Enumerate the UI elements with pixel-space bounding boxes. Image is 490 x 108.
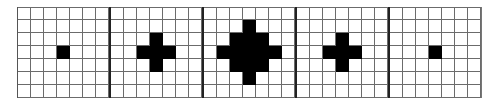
empty-cell xyxy=(18,85,31,98)
empty-cell xyxy=(137,72,150,85)
empty-cell xyxy=(189,72,202,85)
empty-cell xyxy=(349,59,362,72)
empty-cell xyxy=(310,20,323,33)
empty-cell xyxy=(70,59,83,72)
empty-cell xyxy=(336,7,349,20)
empty-cell xyxy=(349,33,362,46)
empty-cell xyxy=(323,33,336,46)
empty-cell xyxy=(468,20,481,33)
empty-cell xyxy=(455,59,468,72)
empty-cell xyxy=(323,85,336,98)
empty-cell xyxy=(163,7,176,20)
empty-cell xyxy=(204,85,217,98)
empty-cell xyxy=(442,20,455,33)
empty-cell xyxy=(349,7,362,20)
empty-cell xyxy=(442,46,455,59)
empty-cell xyxy=(124,33,137,46)
empty-cell xyxy=(18,20,31,33)
empty-cell xyxy=(390,46,403,59)
empty-cell xyxy=(83,85,96,98)
empty-cell xyxy=(297,7,310,20)
empty-cell xyxy=(204,33,217,46)
filled-cell xyxy=(429,46,442,59)
empty-cell xyxy=(57,72,70,85)
empty-cell xyxy=(310,46,323,59)
empty-cell xyxy=(375,72,388,85)
empty-cell xyxy=(96,72,109,85)
empty-cell xyxy=(31,46,44,59)
empty-cell xyxy=(83,72,96,85)
empty-cell xyxy=(83,59,96,72)
empty-cell xyxy=(323,59,336,72)
empty-cell xyxy=(310,59,323,72)
empty-cell xyxy=(137,7,150,20)
empty-cell xyxy=(429,59,442,72)
empty-cell xyxy=(310,7,323,20)
empty-cell xyxy=(163,33,176,46)
empty-cell xyxy=(403,85,416,98)
empty-cell xyxy=(83,33,96,46)
empty-cell xyxy=(336,20,349,33)
empty-cell xyxy=(349,20,362,33)
filled-cell xyxy=(150,33,163,46)
empty-cell xyxy=(256,7,269,20)
empty-cell xyxy=(96,59,109,72)
panel-4 xyxy=(295,7,388,98)
empty-cell xyxy=(70,7,83,20)
filled-cell xyxy=(243,33,256,46)
panel-1 xyxy=(17,7,109,98)
empty-cell xyxy=(468,33,481,46)
empty-cell xyxy=(163,20,176,33)
empty-cell xyxy=(44,46,57,59)
filled-cell xyxy=(349,46,362,59)
empty-cell xyxy=(230,7,243,20)
empty-cell xyxy=(336,72,349,85)
empty-cell xyxy=(336,85,349,98)
empty-cell xyxy=(297,59,310,72)
empty-cell xyxy=(57,7,70,20)
empty-cell xyxy=(83,7,96,20)
empty-cell xyxy=(442,72,455,85)
empty-cell xyxy=(256,72,269,85)
empty-cell xyxy=(83,46,96,59)
empty-cell xyxy=(442,85,455,98)
empty-cell xyxy=(176,20,189,33)
empty-cell xyxy=(217,85,230,98)
empty-cell xyxy=(468,7,481,20)
empty-cell xyxy=(282,20,295,33)
empty-cell xyxy=(256,20,269,33)
empty-cell xyxy=(362,72,375,85)
filled-cell xyxy=(256,46,269,59)
empty-cell xyxy=(375,46,388,59)
empty-cell xyxy=(176,72,189,85)
empty-cell xyxy=(150,7,163,20)
empty-cell xyxy=(163,59,176,72)
empty-cell xyxy=(176,85,189,98)
empty-cell xyxy=(468,59,481,72)
empty-cell xyxy=(96,20,109,33)
empty-cell xyxy=(217,20,230,33)
empty-cell xyxy=(282,59,295,72)
empty-cell xyxy=(403,72,416,85)
empty-cell xyxy=(429,7,442,20)
empty-cell xyxy=(124,59,137,72)
empty-cell xyxy=(96,46,109,59)
empty-cell xyxy=(189,7,202,20)
empty-cell xyxy=(403,33,416,46)
empty-cell xyxy=(189,46,202,59)
empty-cell xyxy=(44,59,57,72)
empty-cell xyxy=(230,72,243,85)
empty-cell xyxy=(362,46,375,59)
empty-cell xyxy=(455,7,468,20)
empty-cell xyxy=(455,20,468,33)
empty-cell xyxy=(403,59,416,72)
filled-cell xyxy=(57,46,70,59)
filled-cell xyxy=(230,46,243,59)
filled-cell xyxy=(336,59,349,72)
empty-cell xyxy=(124,72,137,85)
empty-cell xyxy=(442,33,455,46)
empty-cell xyxy=(204,20,217,33)
empty-cell xyxy=(176,7,189,20)
empty-cell xyxy=(375,20,388,33)
empty-cell xyxy=(230,20,243,33)
